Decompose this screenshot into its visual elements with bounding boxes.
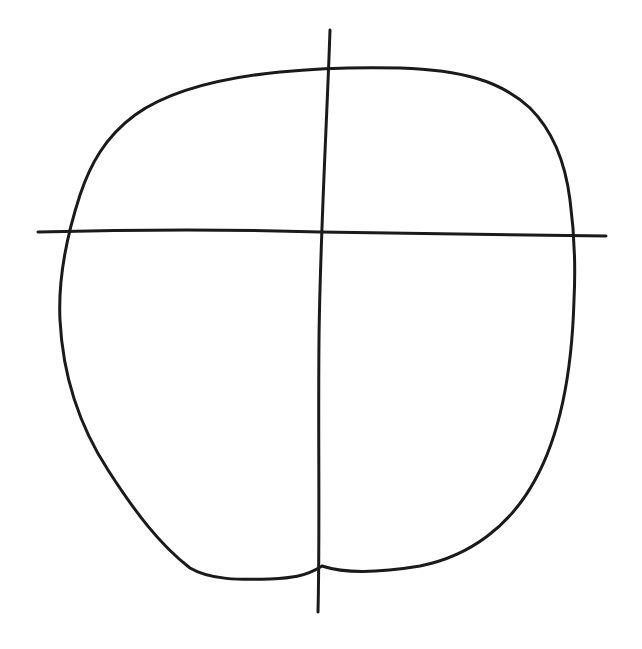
background <box>0 0 642 649</box>
diagram-canvas <box>0 0 642 649</box>
